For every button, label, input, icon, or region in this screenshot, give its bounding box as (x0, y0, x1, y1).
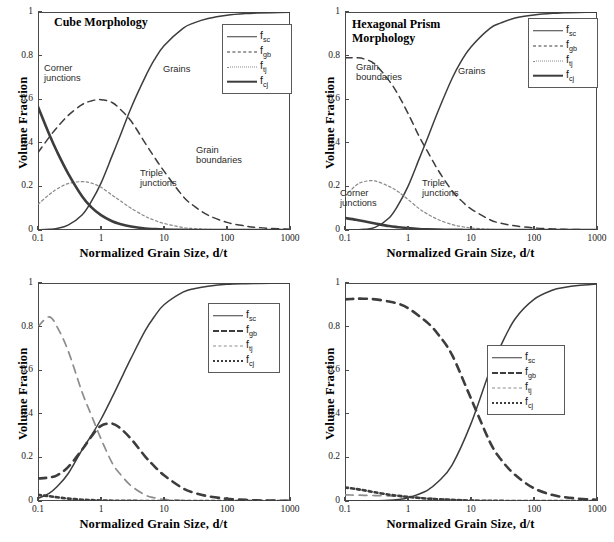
annotation-grains: Grains (458, 66, 485, 76)
x-tick-mark (37, 497, 38, 501)
y-tick-label: 0.8 (7, 50, 33, 60)
y-tick-label: 1 (314, 277, 340, 287)
annotation-triple-junctions: Triple junctions (422, 178, 459, 199)
x-tick-mark (344, 497, 345, 501)
legend-label: fgb (525, 365, 536, 380)
legend: fscfgbftjfcj (208, 303, 280, 373)
x-tick-label: 0.1 (330, 504, 360, 514)
y-tick-label: 1 (7, 6, 33, 16)
annotation-grain-boundaries: Grain boundaries (356, 62, 402, 83)
y-axis-title: Volume Fraction (323, 77, 338, 169)
x-tick-label: 100 (212, 233, 242, 243)
x-tick-mark (100, 497, 101, 501)
annotation-grain-boundaries: Grain boundaries (196, 145, 242, 166)
legend-label: fcj (525, 395, 533, 410)
x-tick-mark (100, 226, 101, 230)
legend-item: fsc (492, 350, 559, 365)
x-tick-label: 100 (519, 504, 549, 514)
y-tick-mark (38, 142, 42, 143)
legend-line-sample (213, 311, 243, 321)
legend-item: fcj (492, 395, 559, 410)
x-tick-mark (37, 226, 38, 230)
x-tick-label: 10 (149, 233, 179, 243)
x-axis-title: Normalized Grain Size, d/t (307, 517, 614, 532)
x-tick-label: 10 (456, 233, 486, 243)
legend-label: ftj (566, 53, 573, 68)
x-tick-label: 1000 (275, 233, 305, 243)
y-tick-label: 0.2 (7, 180, 33, 190)
legend-line-sample (213, 326, 243, 336)
x-tick-label: 1 (393, 233, 423, 243)
x-tick-mark (226, 226, 227, 230)
legend-label: fcj (566, 68, 574, 83)
y-axis-title: Volume Fraction (16, 77, 31, 169)
x-axis-title: Normalized Grain Size, d/t (0, 517, 307, 532)
y-tick-label: 0.8 (314, 50, 340, 60)
panel-hexagonal-prism-morphology: 00.20.40.60.810.11101001000Volume Fracti… (307, 0, 614, 271)
y-tick-mark (345, 326, 349, 327)
legend-line-sample (227, 32, 257, 42)
legend-item: fsc (533, 23, 592, 38)
legend-line-sample (227, 62, 257, 72)
legend-line-sample (213, 341, 243, 351)
y-tick-mark (345, 55, 349, 56)
y-tick-mark (38, 99, 42, 100)
figure-root: 00.20.40.60.810.11101001000Volume Fracti… (0, 0, 614, 542)
curve-f-gb (38, 100, 290, 230)
y-tick-mark (345, 186, 349, 187)
x-tick-label: 1 (86, 504, 116, 514)
y-tick-mark (38, 370, 42, 371)
x-tick-mark (470, 497, 471, 501)
x-tick-mark (289, 226, 290, 230)
legend-item: fcj (533, 68, 592, 83)
legend-label: fgb (566, 38, 577, 53)
x-tick-label: 1000 (582, 233, 612, 243)
x-tick-label: 100 (212, 504, 242, 514)
annotation-corner-junctions: Corner junctions (44, 63, 81, 84)
legend-label: fsc (566, 23, 576, 38)
y-tick-label: 1 (7, 277, 33, 287)
legend-item: fsc (213, 308, 274, 323)
x-tick-label: 0.1 (23, 233, 53, 243)
legend-line-sample (227, 77, 257, 87)
y-tick-label: 0.8 (314, 321, 340, 331)
legend-line-sample (533, 56, 563, 66)
legend-item: fgb (492, 365, 559, 380)
panel-hexagonal-alpha-10: 00.20.40.60.810.11101001000Volume Fracti… (0, 271, 307, 542)
legend-item: ftj (227, 59, 286, 74)
x-tick-mark (344, 226, 345, 230)
x-axis-title: Normalized Grain Size, d/t (0, 246, 307, 261)
legend-line-sample (533, 26, 563, 36)
annotation-grains: Grains (163, 64, 190, 74)
y-tick-mark (345, 413, 349, 414)
y-tick-mark (38, 457, 42, 458)
y-axis-title: Volume Fraction (16, 348, 31, 440)
y-tick-label: 0.8 (7, 321, 33, 331)
legend-line-sample (492, 353, 522, 363)
legend: fscfgbftjfcj (222, 24, 292, 94)
x-axis-title: Normalized Grain Size, d/t (307, 246, 614, 261)
y-tick-mark (38, 282, 42, 283)
legend-item: ftj (213, 338, 274, 353)
y-tick-label: 1 (314, 6, 340, 16)
x-tick-mark (163, 497, 164, 501)
legend-item: ftj (492, 380, 559, 395)
legend-label: fgb (246, 323, 257, 338)
x-tick-mark (533, 226, 534, 230)
y-tick-mark (38, 55, 42, 56)
y-tick-mark (38, 186, 42, 187)
panel-title: Hexagonal Prism Morphology (352, 18, 440, 46)
y-tick-label: 0.2 (7, 451, 33, 461)
legend-item: fgb (227, 44, 286, 59)
y-tick-mark (345, 99, 349, 100)
y-tick-label: 0.2 (314, 451, 340, 461)
y-tick-mark (345, 11, 349, 12)
x-tick-mark (163, 226, 164, 230)
legend: fscfgbftjfcj (528, 18, 598, 88)
legend-label: fcj (260, 74, 268, 89)
legend-item: fcj (227, 74, 286, 89)
x-tick-label: 100 (519, 233, 549, 243)
legend-label: fgb (260, 44, 271, 59)
legend-item: fcj (213, 353, 274, 368)
y-tick-mark (345, 282, 349, 283)
